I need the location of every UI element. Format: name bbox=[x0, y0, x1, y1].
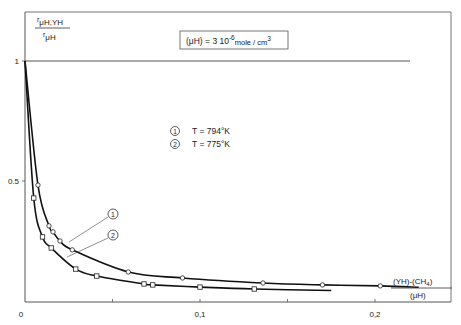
svg-text:T = 794°K: T = 794°K bbox=[192, 126, 230, 136]
data-point-circle bbox=[320, 283, 324, 287]
legend: 1 T = 794°K 2 T = 775°K bbox=[171, 126, 231, 149]
svg-text:1: 1 bbox=[111, 211, 115, 218]
y-tick-label: 0.5 bbox=[8, 177, 20, 186]
axis-ticks: 00,10,20.51 bbox=[8, 57, 381, 319]
svg-text:1: 1 bbox=[173, 128, 177, 135]
svg-text:(μH): (μH) bbox=[410, 291, 426, 300]
data-point-circle bbox=[70, 248, 74, 252]
data-point-square bbox=[32, 196, 36, 200]
data-point-square bbox=[198, 285, 202, 289]
data-point-square bbox=[95, 274, 99, 278]
data-point-circle bbox=[47, 224, 51, 228]
annotation-2: 2 bbox=[67, 230, 118, 257]
svg-text:rμH: rμH bbox=[43, 31, 56, 42]
x-tick-label: 0 bbox=[19, 310, 24, 319]
svg-text:2: 2 bbox=[111, 232, 115, 239]
curve-series-1 bbox=[25, 61, 419, 287]
condition-box: (μH) = 3 10-6mole / cm3 bbox=[180, 31, 288, 49]
x-axis-label: (YH)-(CH4) (μH) bbox=[391, 277, 452, 300]
data-point-square bbox=[142, 282, 146, 286]
svg-text:2: 2 bbox=[173, 141, 177, 148]
chart: 00,10,20.51 rμH,YH rμH (μH) = 3 10-6mole… bbox=[0, 0, 461, 325]
data-point-circle bbox=[58, 239, 62, 243]
data-point-circle bbox=[180, 276, 184, 280]
data-point-square bbox=[49, 246, 53, 250]
data-series bbox=[25, 61, 419, 291]
legend-item-1: 1 T = 794°K bbox=[171, 126, 231, 136]
data-point-square bbox=[252, 287, 256, 291]
legend-item-2: 2 T = 775°K bbox=[171, 139, 231, 149]
data-point-circle bbox=[378, 284, 382, 288]
y-axis-label: rμH,YH rμH bbox=[35, 16, 70, 42]
data-point-circle bbox=[126, 270, 130, 274]
y-tick-label: 1 bbox=[15, 57, 20, 66]
plot-frame bbox=[25, 12, 451, 302]
data-point-square bbox=[74, 267, 78, 271]
data-point-square bbox=[151, 283, 155, 287]
data-point-square bbox=[40, 235, 44, 239]
svg-text:T = 775°K: T = 775°K bbox=[192, 139, 230, 149]
data-point-circle bbox=[36, 183, 40, 187]
x-tick-label: 0,1 bbox=[194, 310, 206, 319]
curve-series-2 bbox=[25, 61, 331, 290]
x-tick-label: 0,2 bbox=[369, 310, 381, 319]
data-point-circle bbox=[261, 281, 265, 285]
svg-text:(μH) = 3 10-6mole / cm3: (μH) = 3 10-6mole / cm3 bbox=[186, 34, 271, 47]
data-point-circle bbox=[51, 230, 55, 234]
svg-text:(YH)-(CH4): (YH)-(CH4) bbox=[393, 277, 433, 287]
svg-text:rμH,YH: rμH,YH bbox=[37, 16, 63, 27]
